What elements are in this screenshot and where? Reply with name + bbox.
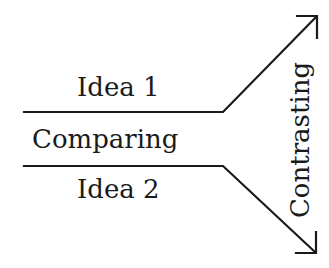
idea-2-label: Idea 2 <box>77 174 160 204</box>
contrasting-label: Contrasting <box>285 62 315 218</box>
top-line <box>24 17 316 112</box>
comparing-label: Comparing <box>32 124 178 154</box>
idea-1-label: Idea 1 <box>77 72 160 102</box>
compare-contrast-diagram: Idea 1 Comparing Idea 2 Contrasting <box>0 0 329 268</box>
bottom-line <box>24 166 315 252</box>
